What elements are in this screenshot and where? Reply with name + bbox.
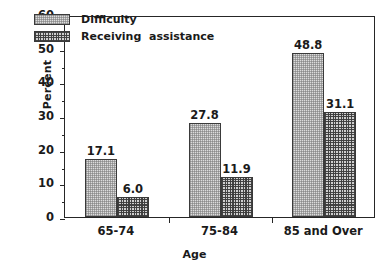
legend-label-assistance: Receiving assistance (81, 31, 214, 42)
bar-value-label: 6.0 (109, 184, 157, 196)
plot-area: 17.16.027.811.948.831.1 (64, 16, 375, 218)
y-axis-major-tick (60, 185, 65, 186)
bar-value-label: 11.9 (213, 164, 261, 176)
y-axis-minor-tick (62, 101, 66, 102)
bar-value-label: 27.8 (181, 110, 229, 122)
y-axis-tick-label: 40 (22, 77, 54, 89)
legend-item-difficulty: Difficulty (34, 12, 214, 26)
y-axis-tick-label: 10 (22, 178, 54, 190)
legend-swatch-assistance-icon (34, 31, 70, 42)
legend-item-assistance: Receiving assistance (34, 29, 214, 43)
y-axis-major-tick (60, 152, 65, 153)
y-axis-minor-tick (62, 202, 66, 203)
bar-value-label: 48.8 (284, 40, 332, 52)
y-axis-tick-label: 20 (22, 145, 54, 157)
x-axis-tick-label: 85 and Over (253, 226, 389, 238)
y-axis-major-tick (60, 219, 65, 220)
bar-value-label: 17.1 (77, 146, 125, 158)
bar-difficulty[interactable] (292, 53, 324, 217)
bar-value-label: 31.1 (316, 99, 364, 111)
legend: Difficulty Receiving assistance (34, 12, 214, 46)
y-axis-minor-tick (62, 68, 66, 69)
x-axis-title: Age (0, 248, 389, 261)
x-axis-tick (169, 217, 170, 223)
bar-chart-figure: Percent 0102030405060 17.16.027.811.948.… (0, 0, 389, 274)
bar-assistance[interactable] (221, 177, 253, 217)
y-axis-minor-tick (62, 135, 66, 136)
legend-label-difficulty: Difficulty (81, 14, 137, 25)
y-axis-major-tick (60, 118, 65, 119)
y-axis-tick-label: 0 (22, 212, 54, 224)
x-axis-tick (272, 217, 273, 223)
legend-swatch-difficulty-icon (34, 14, 70, 25)
y-axis-major-tick (60, 84, 65, 85)
y-axis-minor-tick (62, 169, 66, 170)
y-axis-major-tick (60, 51, 65, 52)
y-axis-tick-label: 30 (22, 111, 54, 123)
bar-assistance[interactable] (324, 112, 356, 217)
bar-assistance[interactable] (117, 197, 149, 217)
